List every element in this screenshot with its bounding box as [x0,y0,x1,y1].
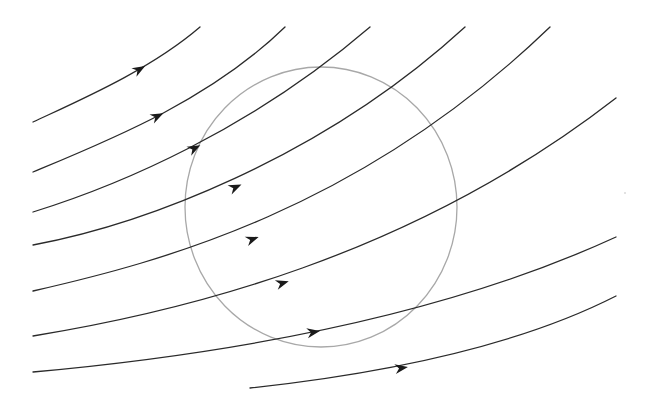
arrowhead-icon [275,276,290,289]
arrowhead-icon [131,62,147,77]
streamline-diagram [0,0,653,416]
diagram-canvas [0,0,653,416]
streamline-8 [250,296,616,388]
streamline-4 [33,27,465,245]
arrowhead-icon [245,232,261,246]
streamlines-group [33,27,616,388]
arrowhead-icon [306,326,321,338]
streamline-3 [33,27,370,212]
flow-arrows-group [131,62,408,374]
stray-dot [624,192,626,194]
streamline-2 [33,27,285,172]
streamline-1 [33,27,200,122]
arrowhead-icon [150,109,166,124]
arrowhead-icon [228,180,244,194]
streamline-5 [33,27,550,291]
boundary-circle [185,67,457,347]
streamline-7 [33,237,616,372]
